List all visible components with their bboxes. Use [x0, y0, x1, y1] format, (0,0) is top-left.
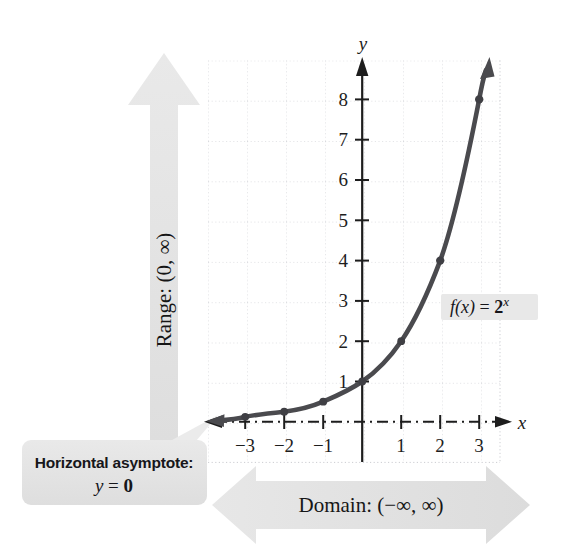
- function-label-text: f(x) = 2x: [450, 294, 509, 318]
- x-tick-label: −2: [274, 435, 294, 456]
- y-tick-label: 7: [339, 129, 349, 150]
- x-axis-label: x: [517, 412, 527, 433]
- function-label-exponent: x: [502, 294, 509, 309]
- asymptote-value-zero: 0: [124, 475, 134, 496]
- x-tick-label: 2: [435, 435, 445, 456]
- data-point: [358, 378, 366, 386]
- data-point: [475, 95, 483, 103]
- x-tick-label: −1: [313, 435, 333, 456]
- plot-grid: [208, 60, 500, 462]
- data-point: [397, 337, 405, 345]
- y-tick-label: 5: [339, 210, 349, 231]
- y-tick-label: 2: [339, 331, 349, 352]
- y-axis-label: y: [357, 33, 368, 54]
- y-tick-label: 4: [339, 250, 349, 271]
- y-tick-label: 8: [339, 89, 349, 110]
- function-label-equals: =: [475, 297, 494, 317]
- function-label-base: 2: [494, 297, 503, 317]
- x-tick-label: 1: [396, 435, 406, 456]
- domain-annotation-label: Domain: (−∞, ∞): [298, 493, 443, 517]
- asymptote-value-y: y: [93, 475, 104, 496]
- data-point: [436, 256, 444, 264]
- data-point: [319, 398, 327, 406]
- asymptote-callout-value: y = 0: [93, 475, 133, 496]
- y-tick-label: 6: [339, 169, 349, 190]
- x-tick-label: −3: [235, 435, 255, 456]
- y-tick-label: 3: [339, 290, 349, 311]
- asymptote-value-eq: =: [103, 475, 123, 496]
- range-annotation-label: Range: (0, ∞): [152, 233, 176, 348]
- data-point: [280, 408, 288, 416]
- x-tick-label: 3: [474, 435, 484, 456]
- function-label-fx: f(x): [450, 297, 475, 318]
- figure-canvas: Range: (0, ∞) Domain: (−∞, ∞) Horizontal…: [0, 0, 572, 552]
- function-label: f(x) = 2x: [441, 294, 538, 320]
- data-point: [241, 413, 249, 421]
- asymptote-callout-title: Horizontal asymptote:: [35, 454, 194, 471]
